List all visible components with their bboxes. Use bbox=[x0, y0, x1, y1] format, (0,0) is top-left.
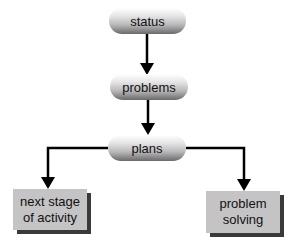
node-problem-solving-line1: problem bbox=[220, 196, 267, 212]
node-next-stage-line2: of activity bbox=[20, 210, 80, 226]
node-next-stage-line1: next stage bbox=[20, 194, 80, 210]
node-problem-solving-line2: solving bbox=[220, 212, 267, 228]
node-problems: problems bbox=[110, 74, 188, 100]
arrowhead-icon bbox=[141, 123, 155, 135]
arrowhead-icon bbox=[41, 177, 55, 189]
node-plans: plans bbox=[108, 135, 186, 161]
node-next-stage: next stage of activity bbox=[13, 189, 87, 230]
node-problem-solving: problem solving bbox=[206, 191, 280, 233]
node-plans-label: plans bbox=[131, 141, 162, 156]
node-problems-label: problems bbox=[122, 80, 175, 95]
node-status: status bbox=[109, 8, 186, 34]
edge-plans-next-stage bbox=[48, 148, 108, 180]
arrowhead-icon bbox=[237, 179, 251, 191]
node-status-label: status bbox=[130, 14, 165, 29]
edge-plans-problem-solving bbox=[186, 148, 244, 182]
